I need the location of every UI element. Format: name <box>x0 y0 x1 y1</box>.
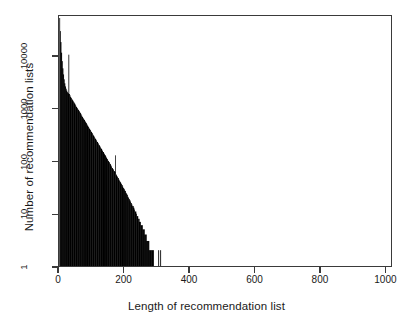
x-axis-title: Length of recommendation list <box>0 300 413 312</box>
x-tick-label: 1000 <box>374 275 396 285</box>
histogram-bars <box>59 16 391 266</box>
x-tick-mark <box>188 267 189 273</box>
x-tick-label: 200 <box>115 275 132 285</box>
y-tick-mark <box>52 108 58 109</box>
x-tick-label: 400 <box>181 275 198 285</box>
x-tick-label: 800 <box>312 275 329 285</box>
y-axis-title: Number of recommendation lists <box>23 22 35 272</box>
histogram-figure: 110100100010000 02004006008001000 Length… <box>0 0 413 327</box>
x-tick-mark <box>254 267 255 273</box>
x-tick-mark <box>319 267 320 273</box>
x-tick-mark <box>57 267 58 273</box>
y-tick-mark <box>52 161 58 162</box>
x-tick-mark <box>123 267 124 273</box>
x-tick-mark <box>385 267 386 273</box>
x-tick-label: 600 <box>246 275 263 285</box>
y-tick-mark <box>52 55 58 56</box>
plot-area <box>58 15 392 267</box>
y-tick-mark <box>52 214 58 215</box>
x-tick-label: 0 <box>55 275 61 285</box>
